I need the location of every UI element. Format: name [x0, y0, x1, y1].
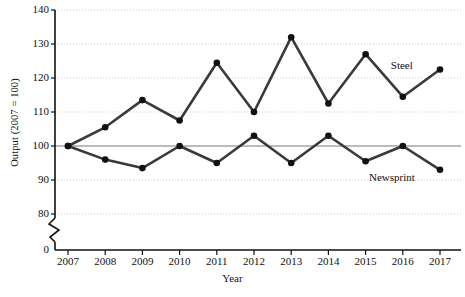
y-axis-origin-label: 0 [15, 244, 49, 255]
y-tick-label: 110 [15, 106, 49, 117]
y-tick-label: 140 [15, 4, 49, 15]
y-tick-label: 90 [15, 174, 49, 185]
x-tick-label: 2017 [417, 256, 463, 267]
series-label-steel: Steel [391, 60, 413, 71]
y-tick-label: 120 [15, 72, 49, 83]
x-axis-title: Year [0, 272, 465, 284]
series-label-newsprint: Newsprint [369, 172, 415, 183]
y-tick-label: 80 [15, 208, 49, 219]
line-chart: Output (2007 = 100) Year 809010011012013… [0, 0, 465, 297]
y-tick-label: 130 [15, 38, 49, 49]
y-tick-label: 100 [15, 140, 49, 151]
chart-plot-area [0, 0, 465, 297]
